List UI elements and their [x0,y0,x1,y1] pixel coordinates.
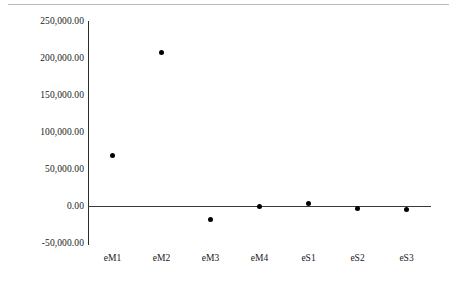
data-point [159,50,164,55]
y-tick-label: 200,000.00 [4,53,84,64]
data-point [355,206,360,211]
data-point [257,204,262,209]
y-axis-tick-labels: 250,000.00 200,000.00 150,000.00 100,000… [0,0,84,281]
x-tick-label-eM1: eM1 [104,252,121,264]
x-tick-label-eM2: eM2 [153,252,170,264]
y-tick-label: 150,000.00 [4,90,84,101]
scatter-plot: 250,000.00 200,000.00 150,000.00 100,000… [0,0,451,281]
x-tick-label-eS3: eS3 [399,252,413,264]
x-tick-label-eS1: eS1 [301,252,315,264]
x-tick-label-eM3: eM3 [202,252,219,264]
data-point [208,217,213,222]
x-axis-tick-labels: eM1 eM2 eM3 eM4 eS1 eS2 eS3 [88,252,431,268]
y-tick-label: 100,000.00 [4,127,84,138]
y-tick-label: 50,000.00 [4,164,84,175]
data-point [404,207,409,212]
data-point [110,153,115,158]
y-tick-label: 0.00 [4,201,84,212]
y-axis-line [88,21,89,245]
y-tick-label: -50,000.00 [4,238,84,249]
x-tick-label-eS2: eS2 [350,252,364,264]
chart-figure: 250,000.00 200,000.00 150,000.00 100,000… [0,0,451,281]
x-tick-label-eM4: eM4 [251,252,268,264]
y-tick-label: 250,000.00 [4,16,84,27]
